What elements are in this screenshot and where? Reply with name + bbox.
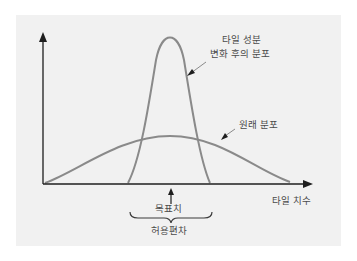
x-axis-arrow-icon [303,180,313,188]
changed-pointer-arrow-icon [187,69,195,76]
tolerance-label: 허용편차 [151,225,187,237]
target-label: 목표치 [155,203,182,215]
original-pointer-line [225,129,235,136]
y-axis-arrow-icon [39,32,47,42]
distribution-diagram [0,0,357,261]
changed-distribution-label-line2: 변화 후의 분포 [210,48,270,60]
target-arrow-icon [168,188,174,195]
changed-distribution-label-line1: 타일 성분 [222,34,261,46]
original-distribution-curve [45,136,290,183]
original-distribution-label: 원래 분포 [239,119,278,131]
x-axis-label: 타일 치수 [272,195,311,207]
changed-distribution-curve [128,38,210,184]
